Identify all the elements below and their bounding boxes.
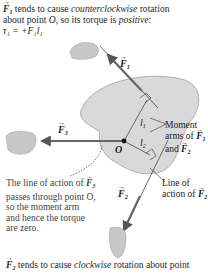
label-l2: l2 <box>140 137 146 152</box>
hand-F2-icon <box>109 227 126 258</box>
label-F1: F1 <box>120 58 130 73</box>
label-F2: F2 <box>118 188 128 203</box>
line-of-action-note: Line of action of F2 <box>162 178 207 202</box>
label-O: O <box>115 144 122 155</box>
label-F3: F3 <box>58 124 68 139</box>
hand-F3-icon <box>6 131 36 154</box>
moment-arms-note: Moment arms of F1 and F2 <box>165 120 205 158</box>
caption-bottom: F2 tends to cause clockwise rotation abo… <box>6 259 189 274</box>
pivot-point-O <box>122 139 127 144</box>
hand-F1-icon <box>70 42 98 59</box>
label-l1: l1 <box>140 117 146 132</box>
f3-zero-torque-note: The line of action of F3 passes through … <box>6 178 96 234</box>
